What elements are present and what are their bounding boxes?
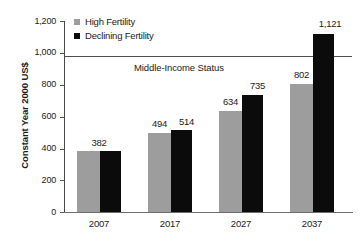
legend-swatch-icon-declining-fertility [74, 33, 80, 39]
value-label-2007: 382 [69, 138, 129, 148]
y-tick-label-800: 800 [0, 80, 56, 89]
y-tick-label-400: 400 [0, 144, 56, 153]
legend-item-high-fertility[interactable]: High Fertility [74, 16, 154, 28]
legend-label-high-fertility: High Fertility [85, 17, 135, 27]
y-tick-label-1000: 1,000 [0, 48, 56, 57]
bar-2007-declining-fertility[interactable] [100, 151, 121, 212]
bar-2037-high-fertility[interactable] [290, 84, 313, 212]
middle-income-status-label: Middle-Income Status [134, 62, 224, 73]
x-tick-label-2037: 2037 [276, 218, 348, 229]
value-label-2037-declining-fertility: 1,121 [308, 19, 352, 29]
y-tick-label-1200: 1,200 [0, 17, 56, 26]
x-axis-line [64, 212, 353, 213]
bar-chart: Constant Year 2000 US$ 1,200 1,000 800 6… [0, 0, 363, 244]
middle-income-threshold-line-left [64, 56, 313, 57]
legend-swatch-icon-high-fertility [74, 19, 80, 25]
bar-2027-declining-fertility[interactable] [242, 95, 263, 212]
x-tick-label-2017: 2017 [134, 218, 206, 229]
bar-2017-high-fertility[interactable] [148, 133, 171, 212]
legend-item-declining-fertility[interactable]: Declining Fertility [74, 30, 154, 42]
x-tick-label-2007: 2007 [63, 218, 135, 229]
legend-label-declining-fertility: Declining Fertility [85, 31, 154, 41]
y-axis-line [64, 21, 65, 212]
legend: High Fertility Declining Fertility [74, 16, 154, 44]
bar-2027-high-fertility[interactable] [219, 111, 242, 212]
y-tick-label-600: 600 [0, 112, 56, 121]
x-tick-label-2027: 2027 [205, 218, 277, 229]
value-label-2027-declining-fertility: 735 [239, 81, 276, 91]
bar-2007-high-fertility[interactable] [77, 151, 100, 212]
middle-income-threshold-line-right [334, 56, 352, 57]
value-label-2027-high-fertility: 634 [212, 97, 249, 107]
y-tick-label-200: 200 [0, 176, 56, 185]
y-tick-label-0: 0 [0, 208, 56, 217]
value-label-2037-high-fertility: 802 [283, 70, 320, 80]
bar-2017-declining-fertility[interactable] [171, 130, 192, 212]
bar-2037-declining-fertility[interactable] [313, 34, 334, 212]
value-label-2017-declining-fertility: 514 [168, 117, 205, 127]
